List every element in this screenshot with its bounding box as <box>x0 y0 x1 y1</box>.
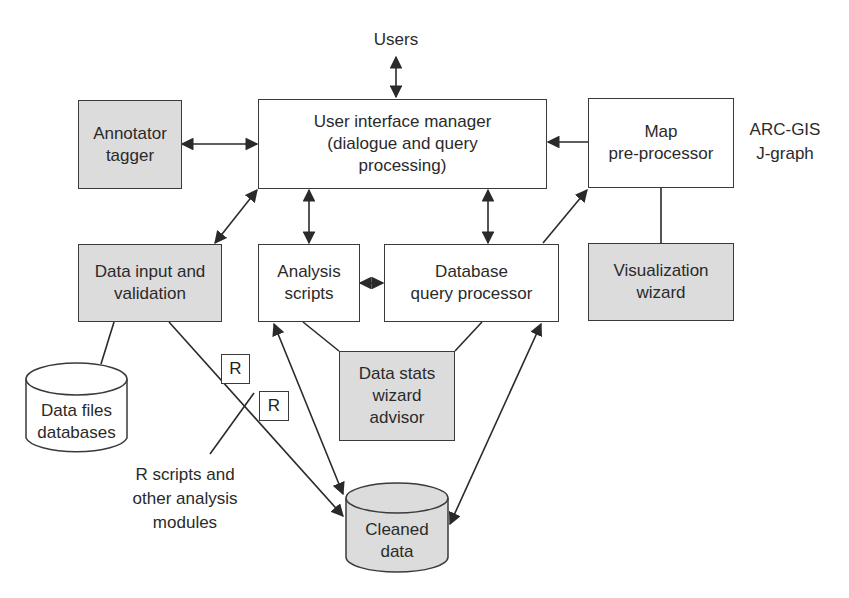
cleaned-line-1: Cleaned <box>365 519 428 541</box>
edge-datainput-ui <box>215 190 257 243</box>
stats-line-3: advisor <box>370 407 425 429</box>
arcgis-label: ARC-GIS J-graph <box>740 118 830 166</box>
r-box-2: R <box>259 391 289 421</box>
analysis-line-2: scripts <box>284 283 333 305</box>
data-files-line-1: Data files <box>41 400 112 422</box>
database-query-processor-box: Database query processor <box>384 244 559 322</box>
cleaned-data-label: Cleaned data <box>346 514 448 568</box>
stats-line-2: wizard <box>372 385 421 407</box>
viz-line-2: wizard <box>636 282 685 304</box>
data-input-line-1: Data input and <box>95 261 206 283</box>
data-files-line-2: databases <box>37 422 115 444</box>
map-preprocessor-box: Map pre-processor <box>588 98 734 188</box>
ui-manager-line-2: (dialogue and query <box>327 133 477 155</box>
r-scripts-note: R scripts and other analysis modules <box>120 463 250 535</box>
edge-rnote-rbox <box>210 393 254 454</box>
edge-db-cleaned <box>450 324 541 524</box>
ui-manager-line-1: User interface manager <box>314 111 492 133</box>
stats-line-1: Data stats <box>359 363 436 385</box>
arcgis-line-2: J-graph <box>740 142 830 166</box>
arcgis-line-1: ARC-GIS <box>740 118 830 142</box>
viz-line-1: Visualization <box>613 260 708 282</box>
r-note-line-1: R scripts and <box>120 463 250 487</box>
edge-db-map <box>543 190 587 243</box>
edge-datainput-files <box>101 322 114 364</box>
r-note-line-3: modules <box>120 511 250 535</box>
users-label: Users <box>356 28 436 52</box>
r-box-1: R <box>221 354 250 384</box>
db-line-2: query processor <box>411 283 533 305</box>
data-input-line-2: validation <box>114 283 186 305</box>
r-note-line-2: other analysis <box>120 487 250 511</box>
edge-analysis-stats <box>303 322 339 351</box>
data-input-validation-box: Data input and validation <box>78 244 222 322</box>
edge-db-stats <box>455 322 482 351</box>
visualization-wizard-box: Visualization wizard <box>588 243 734 321</box>
annotator-line-2: tagger <box>106 145 154 167</box>
annotator-tagger-box: Annotator tagger <box>78 100 182 189</box>
analysis-scripts-box: Analysis scripts <box>258 244 360 322</box>
data-files-databases-label: Data files databases <box>26 396 127 448</box>
map-line-1: Map <box>644 121 677 143</box>
annotator-line-1: Annotator <box>93 123 167 145</box>
map-line-2: pre-processor <box>609 143 714 165</box>
db-line-1: Database <box>435 261 508 283</box>
analysis-line-1: Analysis <box>277 261 340 283</box>
ui-manager-box: User interface manager (dialogue and que… <box>258 99 547 189</box>
data-stats-wizard-box: Data stats wizard advisor <box>339 351 455 441</box>
ui-manager-line-3: processing) <box>359 155 447 177</box>
cleaned-line-2: data <box>380 541 413 563</box>
